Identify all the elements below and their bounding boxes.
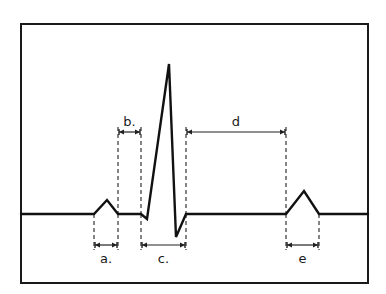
interval-label-b: b.: [123, 114, 135, 129]
dimension-arrow-d: [187, 129, 285, 135]
arrowhead-icon: [313, 243, 318, 248]
dimension-arrow-c: [142, 242, 185, 248]
arrowhead-icon: [280, 130, 285, 135]
ecg-diagram: a. b. c. d e: [0, 0, 386, 294]
arrowhead-icon: [180, 243, 185, 248]
interval-label-a: a.: [100, 251, 112, 266]
interval-label-e: e: [299, 251, 307, 266]
arrowhead-icon: [287, 243, 292, 248]
dimension-arrow-b: [119, 129, 140, 135]
ecg-waveform: [21, 64, 368, 237]
arrowhead-icon: [119, 130, 124, 135]
interval-label-d: d: [232, 114, 240, 129]
interval-label-c: c.: [158, 251, 169, 266]
arrowhead-icon: [112, 243, 117, 248]
dimension-arrow-e: [287, 242, 318, 248]
arrowhead-icon: [187, 130, 192, 135]
interval-labels: a. b. c. d e: [100, 114, 307, 266]
arrowhead-icon: [135, 130, 140, 135]
dimension-arrow-a: [95, 242, 117, 248]
arrowhead-icon: [142, 243, 147, 248]
interval-dimension-arrows: [95, 129, 318, 248]
arrowhead-icon: [95, 243, 100, 248]
dashed-guide-lines: [94, 127, 319, 250]
